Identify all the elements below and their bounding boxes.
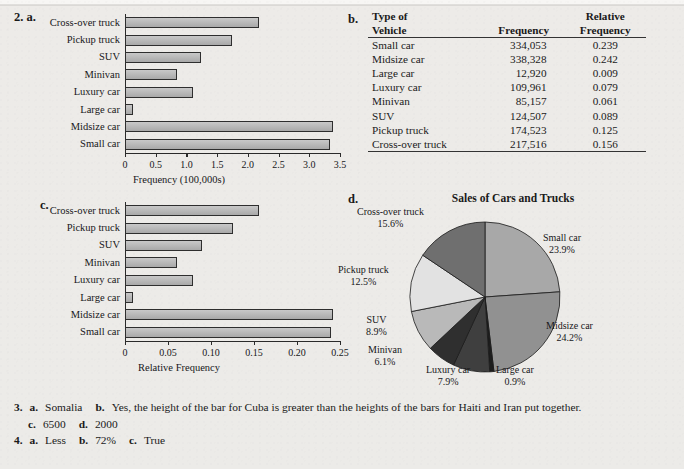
answer-3d-text: 2000: [95, 418, 118, 430]
x-tick: [340, 341, 341, 345]
bar-midsize-car: [125, 309, 333, 320]
table-b-frequency-table: b. Type of Relative Vehicle Frequency Fr…: [348, 10, 670, 152]
frequency-table: Type of Relative Vehicle Frequency Frequ…: [368, 10, 646, 152]
cell-relative-frequency: 0.079: [564, 81, 646, 95]
category-label-minivan: Minivan: [0, 257, 120, 268]
x-tick: [156, 153, 157, 157]
chart-c-relative-frequency-bar-chart: c. Cross-over truckPickup truckSUVMiniva…: [14, 196, 344, 374]
chart-a-x-axis: [125, 153, 340, 154]
table-row: Small car334,0530.239: [368, 38, 646, 53]
x-tick-label: 2.0: [242, 159, 255, 170]
cell-frequency: 85,157: [483, 95, 565, 109]
x-tick: [211, 341, 212, 345]
table-body: Small car334,0530.239Midsize car338,3280…: [368, 38, 646, 152]
category-label-small-car: Small car: [0, 326, 120, 337]
cell-vehicle: Small car: [368, 38, 483, 53]
chart-c-x-axis-title: Relative Frequency: [14, 362, 344, 373]
table-head: Type of Relative Vehicle Frequency Frequ…: [368, 10, 646, 38]
category-label-pickup-truck: Pickup truck: [0, 34, 120, 45]
category-label-cross-over-truck: Cross-over truck: [0, 205, 120, 216]
x-tick-label: 0.25: [331, 347, 349, 358]
cell-relative-frequency: 0.009: [564, 66, 646, 80]
answer-3a-text: Somalia: [45, 401, 82, 413]
category-label-midsize-car: Midsize car: [0, 309, 120, 320]
cell-vehicle: SUV: [368, 109, 483, 123]
cell-vehicle: Luxury car: [368, 81, 483, 95]
chart-a-x-axis-title: Frequency (100,000s): [14, 174, 344, 185]
category-label-minivan: Minivan: [0, 69, 120, 80]
x-tick-label: 1.0: [180, 159, 193, 170]
answer-3b-label: b.: [95, 401, 104, 413]
x-tick-label: 0.05: [159, 347, 177, 358]
pie-label-pickup-truck: Pickup truck12.5%: [338, 264, 389, 288]
x-tick-label: 0.10: [202, 347, 220, 358]
bar-minivan: [125, 69, 177, 80]
x-tick: [309, 153, 310, 157]
x-tick: [186, 153, 187, 157]
pie-label-midsize-car: Midsize car24.2%: [546, 320, 593, 344]
pie-label-percent: 8.9%: [366, 326, 387, 338]
x-tick: [279, 153, 280, 157]
x-tick: [248, 153, 249, 157]
category-label-small-car: Small car: [0, 138, 120, 149]
category-label-luxury-car: Luxury car: [0, 86, 120, 97]
table-row: Minivan85,1570.061: [368, 95, 646, 109]
pie-label-minivan: Minivan6.1%: [368, 344, 402, 368]
category-label-suv: SUV: [0, 239, 120, 250]
header-relative: Relative: [564, 10, 646, 24]
table-header-row-1: Type of Relative: [368, 10, 646, 24]
bar-small-car: [125, 139, 330, 150]
category-label-pickup-truck: Pickup truck: [0, 222, 120, 233]
answers-block: 3.a.Somaliab.Yes, the height of the bar …: [14, 399, 674, 449]
x-tick: [217, 153, 218, 157]
chart-a-plot-area: [125, 14, 340, 153]
pie-label-large-car: Large car0.9%: [496, 364, 534, 388]
answer-row-4: 4.a.Lessb.72%c.True: [14, 432, 674, 449]
chart-c-x-axis: [125, 341, 340, 342]
chart-a-frequency-bar-chart: 2. a. Cross-over truckPickup truckSUVMin…: [14, 8, 344, 186]
pie-label-percent: 0.9%: [496, 376, 534, 388]
cell-relative-frequency: 0.125: [564, 123, 646, 137]
pie-label-percent: 7.9%: [426, 376, 470, 388]
bar-large-car: [125, 104, 133, 115]
cell-frequency: 12,920: [483, 66, 565, 80]
category-label-midsize-car: Midsize car: [0, 121, 120, 132]
answer-4b-text: 72%: [95, 434, 116, 446]
answer-3c-text: 6500: [43, 418, 66, 430]
cell-vehicle: Cross-over truck: [368, 137, 483, 152]
x-tick-label: 0.5: [149, 159, 162, 170]
header-blank: [483, 10, 565, 24]
x-tick: [297, 341, 298, 345]
pie-label-percent: 6.1%: [368, 356, 402, 368]
x-tick-label: 2.5: [272, 159, 285, 170]
cell-relative-frequency: 0.089: [564, 109, 646, 123]
answer-3-number: 3.: [14, 401, 23, 413]
pie-label-name: Cross-over truck: [357, 206, 424, 218]
x-tick: [340, 153, 341, 157]
bar-suv: [125, 240, 202, 251]
header-vehicle: Vehicle: [368, 24, 483, 38]
pie-label-small-car: Small car23.9%: [543, 232, 581, 256]
cell-vehicle: Large car: [368, 66, 483, 80]
answer-4c-text: True: [144, 434, 165, 446]
pie-label-percent: 24.2%: [546, 332, 593, 344]
cell-relative-frequency: 0.156: [564, 137, 646, 152]
chart-c-plot-area: [125, 202, 340, 341]
pie-label-name: Small car: [543, 232, 581, 244]
table-row: Cross-over truck217,5160.156: [368, 137, 646, 152]
answer-4a-text: Less: [45, 434, 66, 446]
bar-pickup-truck: [125, 35, 232, 46]
category-label-suv: SUV: [0, 51, 120, 62]
pie-label-name: SUV: [366, 314, 387, 326]
x-tick-label: 0.20: [288, 347, 306, 358]
table-row: Large car12,9200.009: [368, 66, 646, 80]
header-frequency: Frequency: [483, 24, 565, 38]
answer-4c-label: c.: [129, 434, 137, 446]
bar-small-car: [125, 327, 331, 338]
answer-3b-text: Yes, the height of the bar for Cuba is g…: [112, 401, 582, 413]
pie-label-name: Large car: [496, 364, 534, 376]
answer-row-3-line1: 3.a.Somaliab.Yes, the height of the bar …: [14, 399, 674, 416]
pie-label-name: Pickup truck: [338, 264, 389, 276]
category-label-large-car: Large car: [0, 104, 120, 115]
answer-row-3-line2: c.6500d.2000: [14, 416, 674, 433]
